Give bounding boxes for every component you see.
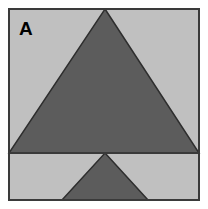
panel-label-a: A (19, 18, 33, 39)
figure-canvas: A (0, 0, 208, 209)
figure-panel: A (0, 0, 208, 209)
